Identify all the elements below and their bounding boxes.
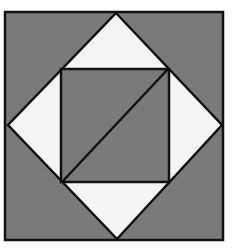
geometric-figure xyxy=(0,0,235,252)
